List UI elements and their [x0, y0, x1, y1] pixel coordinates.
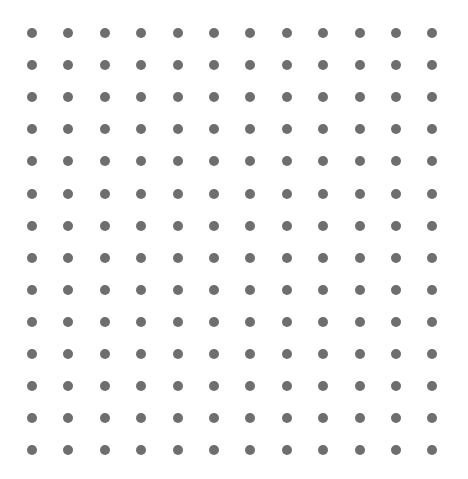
grid-dot	[136, 381, 146, 391]
grid-dot	[27, 381, 37, 391]
grid-dot	[245, 253, 255, 263]
grid-dot	[27, 349, 37, 359]
grid-dot	[282, 124, 292, 134]
grid-dot	[136, 189, 146, 199]
grid-dot	[173, 349, 183, 359]
grid-dot	[355, 381, 365, 391]
grid-dot	[209, 60, 219, 70]
grid-dot	[63, 189, 73, 199]
grid-dot	[173, 124, 183, 134]
grid-dot	[136, 253, 146, 263]
grid-dot	[27, 253, 37, 263]
grid-dot	[100, 221, 110, 231]
grid-dot	[245, 156, 255, 166]
grid-dot	[63, 124, 73, 134]
grid-dot	[355, 156, 365, 166]
grid-dot	[209, 221, 219, 231]
grid-dot	[63, 221, 73, 231]
grid-dot	[100, 285, 110, 295]
grid-dot	[136, 156, 146, 166]
grid-dot	[427, 413, 437, 423]
grid-dot	[427, 445, 437, 455]
grid-dot	[209, 124, 219, 134]
grid-dot	[427, 124, 437, 134]
grid-dot	[100, 28, 110, 38]
grid-dot	[173, 253, 183, 263]
grid-dot	[355, 28, 365, 38]
grid-dot	[355, 445, 365, 455]
grid-dot	[100, 349, 110, 359]
grid-dot	[27, 124, 37, 134]
grid-dot	[136, 124, 146, 134]
grid-dot	[209, 253, 219, 263]
grid-dot	[355, 413, 365, 423]
grid-dot	[355, 317, 365, 327]
grid-dot	[391, 413, 401, 423]
grid-dot	[209, 349, 219, 359]
grid-dot	[209, 317, 219, 327]
grid-dot	[63, 92, 73, 102]
grid-dot	[318, 28, 328, 38]
grid-dot	[245, 221, 255, 231]
grid-dot	[355, 92, 365, 102]
grid-dot	[173, 445, 183, 455]
grid-dot	[355, 189, 365, 199]
grid-dot	[427, 253, 437, 263]
grid-dot	[209, 381, 219, 391]
grid-dot	[245, 28, 255, 38]
grid-dot	[282, 92, 292, 102]
grid-dot	[355, 253, 365, 263]
grid-dot	[282, 221, 292, 231]
grid-dot	[427, 156, 437, 166]
grid-dot	[282, 253, 292, 263]
grid-dot	[136, 317, 146, 327]
grid-dot	[100, 253, 110, 263]
grid-dot	[282, 156, 292, 166]
grid-dot	[173, 413, 183, 423]
grid-dot	[391, 349, 401, 359]
grid-dot	[100, 124, 110, 134]
grid-dot	[391, 28, 401, 38]
grid-dot	[282, 381, 292, 391]
grid-dot	[173, 156, 183, 166]
grid-dot	[100, 156, 110, 166]
grid-dot	[27, 92, 37, 102]
grid-dot	[136, 445, 146, 455]
grid-dot	[173, 381, 183, 391]
grid-dot	[318, 189, 328, 199]
grid-dot	[100, 381, 110, 391]
grid-dot	[173, 221, 183, 231]
grid-dot	[391, 124, 401, 134]
grid-dot	[391, 189, 401, 199]
grid-dot	[355, 60, 365, 70]
grid-dot	[318, 381, 328, 391]
grid-dot	[282, 60, 292, 70]
grid-dot	[209, 189, 219, 199]
grid-dot	[63, 413, 73, 423]
grid-dot	[391, 381, 401, 391]
grid-dot	[355, 349, 365, 359]
grid-dot	[282, 413, 292, 423]
grid-dot	[136, 28, 146, 38]
grid-dot	[318, 285, 328, 295]
grid-dot	[136, 60, 146, 70]
grid-dot	[63, 381, 73, 391]
grid-dot	[136, 92, 146, 102]
grid-dot	[27, 413, 37, 423]
grid-dot	[173, 60, 183, 70]
grid-dot	[63, 156, 73, 166]
grid-dot	[63, 285, 73, 295]
grid-dot	[27, 156, 37, 166]
grid-dot	[100, 189, 110, 199]
grid-dot	[391, 253, 401, 263]
grid-dot	[318, 92, 328, 102]
grid-dot	[245, 445, 255, 455]
grid-dot	[318, 253, 328, 263]
grid-dot	[318, 317, 328, 327]
grid-dot	[63, 253, 73, 263]
grid-dot	[209, 285, 219, 295]
grid-dot	[355, 124, 365, 134]
grid-dot	[245, 189, 255, 199]
grid-dot	[136, 413, 146, 423]
grid-dot	[27, 445, 37, 455]
